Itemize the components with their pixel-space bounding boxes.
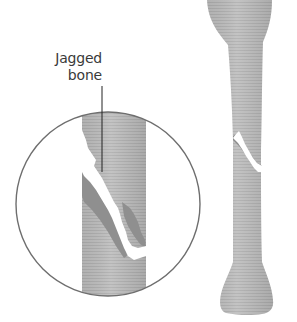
bone-illustration (0, 0, 297, 322)
callout-label-line1: Jagged (30, 50, 102, 67)
callout-label-line2: bone (30, 67, 102, 84)
diagram-canvas: Jagged bone (0, 0, 297, 322)
magnified-inset (16, 100, 200, 310)
full-bone (207, 0, 273, 315)
callout-label: Jagged bone (30, 50, 102, 84)
